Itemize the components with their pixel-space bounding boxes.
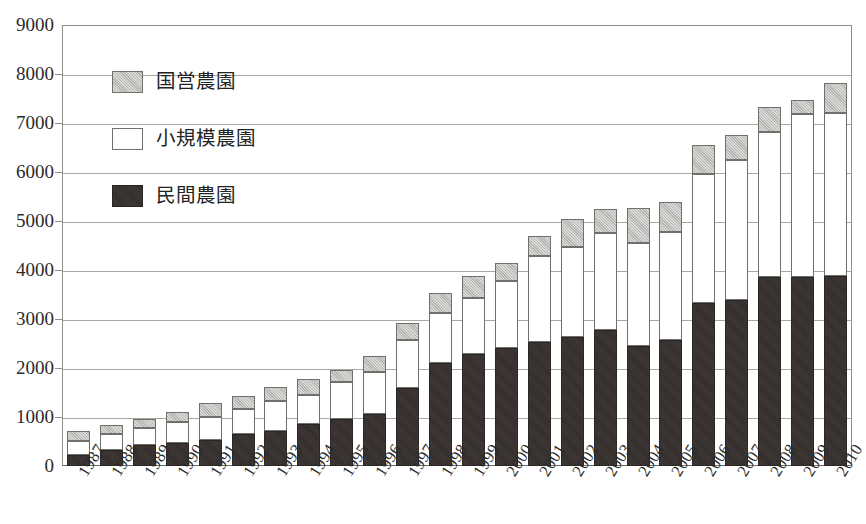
y-tick-mark-8000: [55, 74, 62, 75]
bar-segment-private-farm-2010: [824, 276, 847, 466]
bar-2004: [627, 208, 650, 466]
bar-2001: [528, 236, 551, 466]
bar-segment-small-farm-2008: [758, 132, 781, 278]
bar-1999: [462, 276, 485, 466]
bar-segment-state-farm-1996: [363, 356, 386, 372]
bar-segment-state-farm-1998: [429, 293, 452, 313]
bar-segment-state-farm-1994: [297, 379, 320, 395]
bar-segment-state-farm-2005: [659, 202, 682, 232]
y-tick-label-9000: 9000: [0, 15, 54, 34]
bar-2005: [659, 202, 682, 466]
y-tick-label-4000: 4000: [0, 260, 54, 279]
bar-2002: [561, 219, 584, 466]
chart-legend: 国営農園 小規模農園 民間農園: [112, 66, 277, 237]
small-farm-swatch-icon: [112, 128, 143, 150]
legend-item-private-farm: 民間農園: [112, 180, 277, 211]
bar-segment-small-farm-2000: [495, 281, 518, 349]
bar-segment-state-farm-2008: [758, 107, 781, 132]
bar-segment-state-farm-2004: [627, 208, 650, 243]
y-tick-mark-2000: [55, 368, 62, 369]
bar-segment-state-farm-1993: [264, 387, 287, 401]
bar-segment-private-farm-2008: [758, 277, 781, 466]
bar-2009: [791, 100, 814, 466]
y-tick-label-5000: 5000: [0, 211, 54, 230]
bar-segment-small-farm-1999: [462, 298, 485, 354]
bar-segment-small-farm-1991: [199, 417, 222, 441]
y-tick-label-3000: 3000: [0, 309, 54, 328]
legend-item-small-farm: 小規模農園: [112, 123, 277, 154]
bar-segment-state-farm-1995: [330, 370, 353, 382]
bar-2000: [495, 263, 518, 466]
bar-2003: [594, 209, 617, 466]
legend-label-small-farm: 小規模農園: [156, 129, 256, 149]
bar-segment-private-farm-2007: [725, 300, 748, 466]
bar-segment-small-farm-2004: [627, 243, 650, 346]
bar-segment-private-farm-2003: [594, 330, 617, 466]
bar-segment-small-farm-1997: [396, 340, 419, 388]
bar-segment-small-farm-2009: [791, 114, 814, 277]
bar-segment-small-farm-2006: [692, 174, 715, 303]
bar-2007: [725, 135, 748, 466]
bar-segment-small-farm-2007: [725, 160, 748, 300]
y-tick-label-0: 0: [0, 456, 54, 475]
bar-segment-state-farm-2003: [594, 209, 617, 234]
bar-2008: [758, 107, 781, 466]
bar-segment-small-farm-1995: [330, 382, 353, 419]
legend-label-state-farm: 国営農園: [156, 72, 236, 92]
bar-segment-small-farm-2002: [561, 247, 584, 337]
legend-item-state-farm: 国営農園: [112, 66, 277, 97]
bar-segment-state-farm-2006: [692, 145, 715, 174]
bar-segment-private-farm-2006: [692, 303, 715, 466]
y-tick-label-6000: 6000: [0, 162, 54, 181]
bar-segment-small-farm-2010: [824, 113, 847, 276]
y-tick-label-2000: 2000: [0, 358, 54, 377]
bar-segment-small-farm-1992: [232, 409, 255, 434]
bar-1998: [429, 293, 452, 466]
bar-segment-small-farm-1994: [297, 395, 320, 424]
bar-segment-state-farm-1997: [396, 323, 419, 340]
bar-2010: [824, 83, 847, 466]
bar-segment-state-farm-1988: [100, 425, 123, 434]
bar-segment-state-farm-1990: [166, 412, 189, 422]
bar-2006: [692, 145, 715, 466]
bar-segment-private-farm-2009: [791, 277, 814, 466]
bar-1997: [396, 323, 419, 466]
bar-segment-small-farm-1990: [166, 422, 189, 443]
bar-segment-state-farm-1999: [462, 276, 485, 298]
y-tick-label-7000: 7000: [0, 113, 54, 132]
bar-segment-small-farm-1996: [363, 372, 386, 414]
bar-segment-small-farm-1989: [133, 428, 156, 445]
bar-segment-state-farm-1991: [199, 403, 222, 416]
y-tick-mark-5000: [55, 221, 62, 222]
y-tick-label-1000: 1000: [0, 407, 54, 426]
bar-segment-state-farm-2009: [791, 100, 814, 115]
state-farm-swatch-icon: [112, 71, 143, 93]
bar-segment-state-farm-2002: [561, 219, 584, 247]
bar-segment-small-farm-2003: [594, 233, 617, 330]
bar-segment-state-farm-2000: [495, 263, 518, 281]
private-farm-swatch-icon: [112, 185, 143, 207]
bar-segment-small-farm-1998: [429, 313, 452, 363]
bar-segment-state-farm-2007: [725, 135, 748, 160]
bar-segment-small-farm-2001: [528, 256, 551, 342]
bar-segment-state-farm-1987: [67, 431, 90, 441]
y-tick-mark-4000: [55, 270, 62, 271]
y-tick-mark-3000: [55, 319, 62, 320]
x-axis: 1987198819891990199119921993199419951996…: [62, 470, 852, 524]
bar-segment-state-farm-1992: [232, 396, 255, 408]
y-tick-mark-6000: [55, 172, 62, 173]
y-tick-mark-1000: [55, 417, 62, 418]
bar-segment-state-farm-2010: [824, 83, 847, 112]
bar-segment-small-farm-2005: [659, 232, 682, 339]
legend-label-private-farm: 民間農園: [156, 186, 236, 206]
bar-segment-state-farm-1989: [133, 419, 156, 428]
y-tick-mark-7000: [55, 123, 62, 124]
bar-segment-small-farm-1993: [264, 401, 287, 430]
y-tick-label-8000: 8000: [0, 64, 54, 83]
bar-segment-state-farm-2001: [528, 236, 551, 256]
